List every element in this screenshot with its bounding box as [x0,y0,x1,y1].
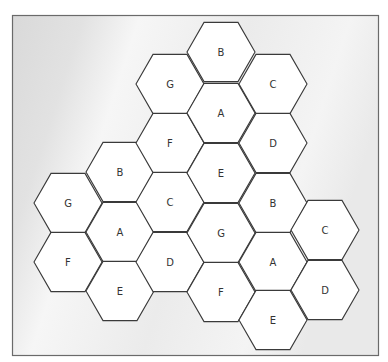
cell-label: B [270,198,277,209]
cell-label: A [218,108,225,119]
cell-label: D [321,285,329,296]
cell-label: G [217,228,225,239]
cell-label: C [167,197,174,208]
cell-label: E [117,286,123,297]
cell-label: D [166,257,174,268]
cell-label: F [65,257,71,268]
cell-label: C [270,79,277,90]
cell-label: F [218,287,224,298]
cell-label: G [64,198,72,209]
hex-cell-diagram: GFBAEGFCDBAEGFCDBAECD [0,0,388,362]
cell-label: A [270,257,277,268]
cell-label: C [322,225,329,236]
cell-label: D [269,138,277,149]
cell-label: E [270,315,276,326]
cell-label: A [117,227,124,238]
cell-label: F [167,138,173,149]
cell-label: B [117,167,124,178]
cell-label: B [218,47,225,58]
cell-label: E [218,168,224,179]
cell-label: G [166,79,174,90]
diagram-canvas: GFBAEGFCDBAEGFCDBAECD [0,0,388,362]
